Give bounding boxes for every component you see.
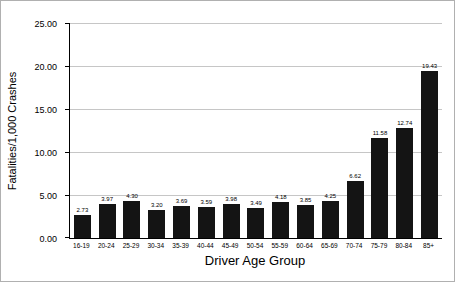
bars-container: 2.733.974.303.203.693.593.983.494.183.85…: [70, 23, 442, 238]
bar: 4.18: [272, 202, 289, 238]
bar: 4.25: [322, 201, 339, 238]
bar-slot: 2.73: [70, 23, 95, 238]
bar-slot: 3.49: [244, 23, 269, 238]
bar-value-label: 12.74: [397, 120, 412, 127]
bar-slot: 6.62: [343, 23, 368, 238]
y-tick-label: 5.00: [1, 191, 65, 201]
bar-chart-figure: Fatalities/1,000 Crashes 0.005.0010.0015…: [0, 0, 455, 282]
x-axis-tick-labels: 16-1920-2425-2930-3435-3940-4445-4950-54…: [69, 242, 441, 249]
bar-value-label: 4.30: [126, 193, 138, 200]
bar-value-label: 2.73: [77, 207, 89, 214]
x-tick-label: 85+: [416, 242, 441, 249]
y-tick-mark: [65, 195, 70, 196]
y-tick-label: 10.00: [1, 148, 65, 158]
x-tick-label: 40-44: [193, 242, 218, 249]
x-axis-title: Driver Age Group: [69, 253, 441, 268]
x-tick-label: 55-59: [267, 242, 292, 249]
bar-value-label: 11.58: [373, 130, 388, 137]
bar-slot: 3.69: [169, 23, 194, 238]
bar-slot: 11.58: [368, 23, 393, 238]
bar: 2.73: [74, 215, 91, 238]
x-tick-label: 80-84: [391, 242, 416, 249]
bar-value-label: 3.20: [151, 202, 163, 209]
bar-slot: 3.59: [194, 23, 219, 238]
bar: 3.49: [247, 208, 264, 238]
y-tick-label: 0.00: [1, 234, 65, 244]
y-tick-label: 20.00: [1, 62, 65, 72]
x-tick-label: 75-79: [367, 242, 392, 249]
plot-area: 2.733.974.303.203.693.593.983.494.183.85…: [69, 23, 442, 239]
bar: 3.97: [99, 204, 116, 238]
bar: 4.30: [123, 201, 140, 238]
y-tick-mark: [65, 237, 70, 238]
bar: 6.62: [347, 181, 364, 238]
y-tick-mark: [65, 66, 70, 67]
x-tick-label: 70-74: [342, 242, 367, 249]
x-tick-label: 45-49: [218, 242, 243, 249]
bar-slot: 4.18: [268, 23, 293, 238]
bar: 3.98: [223, 204, 240, 238]
bar-slot: 4.25: [318, 23, 343, 238]
x-tick-label: 30-34: [143, 242, 168, 249]
bar-value-label: 4.18: [275, 194, 287, 201]
bar-value-label: 19.43: [422, 63, 437, 70]
bar: 3.85: [297, 205, 314, 238]
bar-slot: 3.97: [95, 23, 120, 238]
bar-value-label: 3.98: [225, 196, 237, 203]
bar: 3.59: [198, 207, 215, 238]
bar: 12.74: [396, 128, 413, 238]
bar: 3.69: [173, 206, 190, 238]
x-tick-label: 65-69: [317, 242, 342, 249]
bar-value-label: 3.49: [250, 200, 262, 207]
bar-value-label: 3.69: [176, 198, 188, 205]
x-tick-label: 35-39: [168, 242, 193, 249]
y-tick-mark: [65, 152, 70, 153]
y-tick-label: 25.00: [1, 19, 65, 29]
bar: 19.43: [421, 71, 438, 238]
bar-value-label: 3.85: [300, 197, 312, 204]
bar-slot: 3.98: [219, 23, 244, 238]
x-tick-label: 60-64: [292, 242, 317, 249]
bar-value-label: 3.59: [201, 199, 213, 206]
bar-slot: 12.74: [392, 23, 417, 238]
x-tick-label: 16-19: [69, 242, 94, 249]
y-tick-mark: [65, 109, 70, 110]
y-axis-tick-labels: 0.005.0010.0015.0020.0025.00: [1, 23, 65, 238]
y-tick-label: 15.00: [1, 105, 65, 115]
bar: 11.58: [371, 138, 388, 238]
bar-value-label: 6.62: [349, 173, 361, 180]
bar-slot: 3.85: [293, 23, 318, 238]
x-tick-label: 50-54: [243, 242, 268, 249]
bar-value-label: 4.25: [325, 193, 337, 200]
y-tick-mark: [65, 23, 70, 24]
x-tick-label: 20-24: [94, 242, 119, 249]
bar-slot: 19.43: [417, 23, 442, 238]
bar-slot: 3.20: [144, 23, 169, 238]
bar-value-label: 3.97: [101, 196, 113, 203]
bar-slot: 4.30: [120, 23, 145, 238]
bar: 3.20: [148, 210, 165, 238]
x-tick-label: 25-29: [119, 242, 144, 249]
